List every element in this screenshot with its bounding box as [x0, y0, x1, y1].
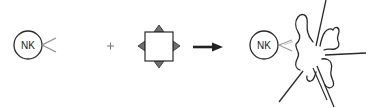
reaction-arrow-icon: [193, 43, 223, 52]
ligand-bottom-icon: [154, 61, 164, 68]
nk-cell-left: NK: [14, 31, 56, 59]
receptor-icon: [279, 40, 293, 51]
target-cell-body: [145, 32, 173, 61]
explosion-lines-icon: [279, 0, 366, 107]
ligand-left-icon: [138, 41, 145, 51]
nk-cell-label: NK: [21, 40, 35, 51]
receptor-icon: [42, 38, 56, 52]
target-cell: [138, 25, 180, 68]
ligand-top-icon: [154, 25, 164, 32]
plus-operator: [107, 43, 114, 50]
lysed-target-cell: [279, 0, 366, 107]
ligand-right-icon: [173, 41, 180, 51]
nk-cell-label: NK: [257, 40, 271, 51]
nk-cell-right: NK: [250, 31, 293, 59]
diagram-canvas: NK NK: [0, 0, 380, 108]
